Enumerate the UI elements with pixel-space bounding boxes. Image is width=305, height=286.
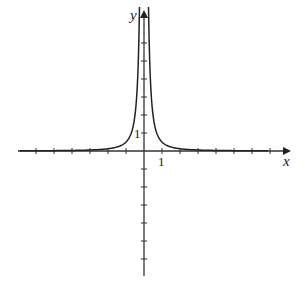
x-axis-label: x — [282, 153, 290, 169]
curve-right-branch — [149, 7, 269, 151]
x-tick-label-1: 1 — [158, 154, 165, 169]
y-axis-label: y — [128, 7, 137, 23]
y-tick-label-1: 1 — [134, 126, 141, 141]
curve-left-branch — [20, 7, 140, 151]
chart: x y 1 1 — [0, 0, 305, 286]
